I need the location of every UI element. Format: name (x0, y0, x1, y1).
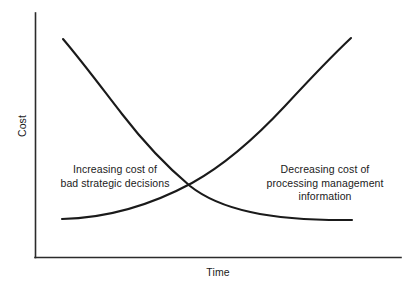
chart-plot-area (0, 0, 418, 291)
annotation-decreasing-cost: Decreasing cost of processing management… (252, 163, 398, 204)
x-axis-label: Time (168, 266, 268, 278)
annotation-increasing-cost: Increasing cost of bad strategic decisio… (44, 163, 186, 190)
chart-container: Increasing cost of bad strategic decisio… (0, 0, 418, 291)
y-axis-label: Cost (16, 96, 28, 156)
